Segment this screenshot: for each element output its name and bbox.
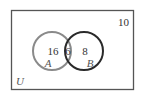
universe-rectangle	[12, 11, 134, 90]
b-only-count: 8	[82, 45, 88, 57]
outside-count: 10	[118, 16, 130, 28]
set-a-label: A	[44, 57, 52, 69]
universe-label: U	[16, 75, 25, 87]
intersection-count: 6	[65, 45, 71, 57]
a-only-count: 16	[48, 45, 60, 57]
venn-diagram: 10 16 6 8 A B U	[0, 0, 141, 97]
set-b-label: B	[87, 57, 94, 69]
